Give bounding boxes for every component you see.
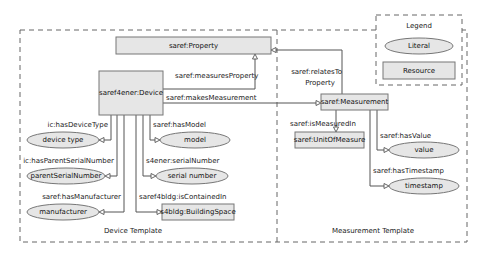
node-saref4ener-device-label: saref4ener:Device <box>99 89 163 97</box>
measurement-template-caption: Measurement Template <box>332 227 414 235</box>
arrow-icon <box>384 148 389 153</box>
label-has-manufacturer: saref:hasManufacturer <box>42 193 121 201</box>
legend-literal-label: Literal <box>408 42 430 50</box>
label-relates-to-2: Property <box>305 79 335 87</box>
label-has-device-type: ic:hasDeviceType <box>47 121 108 129</box>
literal-value-label: value <box>414 146 433 154</box>
node-saref-property-label: saref:Property <box>169 42 218 50</box>
arrow-icon <box>151 174 156 179</box>
device-template-caption: Device Template <box>104 227 162 235</box>
literal-model-label: model <box>184 136 206 144</box>
label-has-model: saref:hasModel <box>153 121 206 129</box>
literal-manufacturer-label: manufacturer <box>39 208 87 216</box>
arrow-icon <box>271 48 276 53</box>
label-relates-to-1: saref:relatesTo <box>291 68 342 76</box>
label-is-contained-in: saref4bldg:isContainedIn <box>139 193 226 201</box>
label-has-timestamp: saref:hasTimestamp <box>373 167 445 175</box>
label-is-measured-in: saref:isMeasuredIn <box>290 120 356 128</box>
label-makes-measurement: saref:makesMeasurement <box>166 94 257 102</box>
label-has-parent-serial: ic:hasParentSerialNumber <box>23 157 114 165</box>
legend-title: Legend <box>406 22 432 30</box>
node-saref-measurement-label: saref:Measurement <box>321 98 389 106</box>
literal-parent-serial-number-label: parentSerialNumber <box>31 172 102 180</box>
arrow-icon <box>99 138 104 143</box>
diagram-canvas: Legend Literal Resource <box>0 0 487 257</box>
literal-nodes: device type parentSerialNumber manufactu… <box>27 132 459 220</box>
literal-serial-number-label: serial number <box>168 172 217 180</box>
edge-has-value <box>377 110 386 150</box>
label-serial-number: s4ener:serialNumber <box>146 157 220 165</box>
literal-device-type-label: device type <box>43 136 84 144</box>
arrow-icon <box>155 138 160 143</box>
node-s4bldg-building-space-label: s4bldg:BuildingSpace <box>160 208 235 216</box>
legend: Legend Literal Resource <box>376 15 462 85</box>
edge-serial-number <box>143 115 153 176</box>
legend-resource-label: Resource <box>403 67 435 75</box>
edge-has-parent-serial <box>108 115 117 176</box>
node-saref-unit-of-measure-label: saref:UnitOfMeasure <box>294 136 366 144</box>
arrow-icon <box>99 210 104 215</box>
arrow-icon <box>384 184 389 189</box>
arrow-icon <box>253 54 258 59</box>
arrow-icon <box>105 174 110 179</box>
label-measures-property: saref:measuresProperty <box>175 72 258 80</box>
literal-timestamp-label: timestamp <box>405 182 443 190</box>
label-has-value: saref:hasValue <box>380 132 431 140</box>
